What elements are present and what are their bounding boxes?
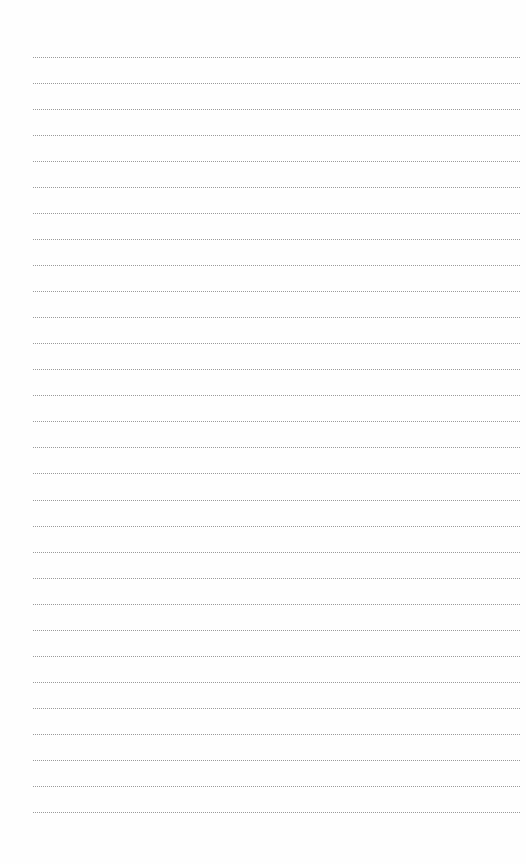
ruled-line <box>33 343 520 344</box>
ruled-line <box>33 187 520 188</box>
ruled-line <box>33 578 520 579</box>
ruled-line <box>33 317 520 318</box>
ruled-line <box>33 447 520 448</box>
ruled-line <box>33 57 520 58</box>
ruled-line <box>33 213 520 214</box>
ruled-line <box>33 812 520 813</box>
ruled-line <box>33 682 520 683</box>
ruled-line <box>33 369 520 370</box>
ruled-line <box>33 239 520 240</box>
ruled-line <box>33 526 520 527</box>
ruled-line <box>33 786 520 787</box>
ruled-line <box>33 760 520 761</box>
lined-paper-page <box>0 0 526 864</box>
ruled-line <box>33 395 520 396</box>
ruled-line <box>33 473 520 474</box>
ruled-line <box>33 552 520 553</box>
ruled-line <box>33 291 520 292</box>
ruled-line <box>33 604 520 605</box>
ruled-line <box>33 656 520 657</box>
ruled-line <box>33 265 520 266</box>
ruled-line <box>33 109 520 110</box>
ruled-line <box>33 135 520 136</box>
ruled-line <box>33 421 520 422</box>
ruled-line <box>33 161 520 162</box>
ruled-line <box>33 734 520 735</box>
ruled-line <box>33 630 520 631</box>
ruled-line <box>33 83 520 84</box>
ruled-line <box>33 500 520 501</box>
ruled-line <box>33 708 520 709</box>
